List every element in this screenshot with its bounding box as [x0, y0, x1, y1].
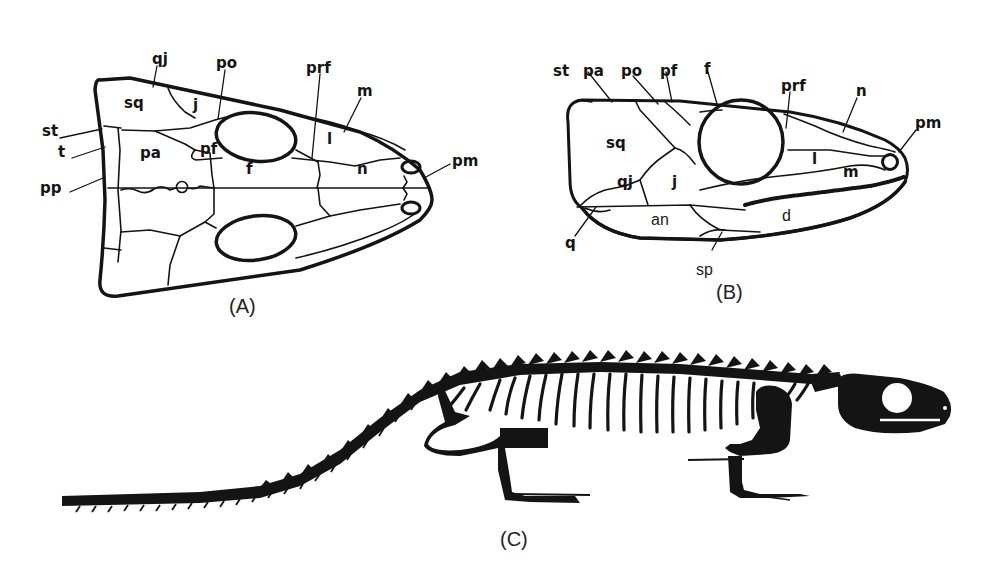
label-b-sq: sq: [606, 136, 626, 151]
label-a-t: t: [58, 145, 65, 160]
panel-label-c: (C): [500, 529, 528, 549]
label-a-sq: sq: [124, 96, 144, 111]
label-b-an: an: [651, 212, 669, 228]
panel-label-b: (B): [716, 282, 743, 302]
skeleton-silhouette: [62, 350, 951, 512]
label-b-pm: pm: [915, 116, 941, 131]
label-a-st: st: [42, 124, 58, 139]
label-b-pf: pf: [660, 64, 677, 79]
label-a-po: po: [216, 56, 237, 71]
label-b-sp: sp: [696, 262, 713, 278]
label-a-pp: pp: [40, 181, 61, 196]
label-b-l: l: [812, 152, 817, 167]
label-b-d: d: [782, 208, 791, 224]
label-a-j: j: [193, 98, 198, 113]
label-b-po: po: [621, 64, 642, 79]
label-a-prf: prf: [306, 61, 331, 76]
label-a-l: l: [327, 132, 332, 147]
label-a-pa: pa: [140, 146, 161, 161]
label-b-f: f: [704, 62, 711, 77]
label-b-prf: prf: [781, 79, 806, 94]
label-a-pf: pf: [200, 142, 217, 157]
label-b-m: m: [843, 165, 859, 180]
label-a-f: f: [246, 162, 253, 177]
label-b-j: j: [672, 175, 677, 190]
skull-dorsal-view: [60, 66, 450, 296]
label-a-qj: qj: [152, 52, 168, 67]
panel-label-a: (A): [229, 296, 256, 316]
figure-drawing: [0, 0, 992, 578]
label-a-n: n: [357, 162, 368, 177]
label-b-qj: qj: [617, 175, 633, 190]
label-b-n: n: [856, 84, 867, 99]
label-b-q: q: [565, 236, 576, 251]
label-a-m: m: [357, 84, 373, 99]
label-a-pm: pm: [452, 154, 478, 169]
label-b-pa: pa: [583, 64, 604, 79]
label-b-st: st: [553, 64, 569, 79]
